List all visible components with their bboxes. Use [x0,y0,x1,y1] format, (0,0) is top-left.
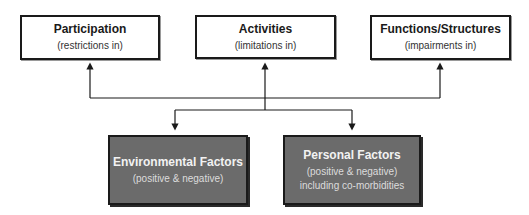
environmental-factors-subtitle: (positive & negative) [133,172,224,186]
participation-subtitle: (restrictions in) [57,39,123,53]
participation-title: Participation [54,22,127,37]
environmental-factors-title: Environmental Factors [113,155,243,170]
functions-structures-box: Functions/Structures (impairments in) [370,15,511,60]
personal-factors-title: Personal Factors [303,148,400,163]
activities-title: Activities [239,22,292,37]
environmental-factors-box: Environmental Factors (positive & negati… [108,135,248,205]
participation-box: Participation (restrictions in) [20,15,160,60]
functions-structures-title: Functions/Structures [380,22,501,37]
personal-factors-subtitle: (positive & negative) including co-morbi… [285,165,419,193]
functions-structures-subtitle: (impairments in) [405,39,477,53]
activities-subtitle: (limitations in) [235,39,297,53]
activities-box: Activities (limitations in) [195,15,336,59]
personal-factors-box: Personal Factors (positive & negative) i… [283,135,421,205]
